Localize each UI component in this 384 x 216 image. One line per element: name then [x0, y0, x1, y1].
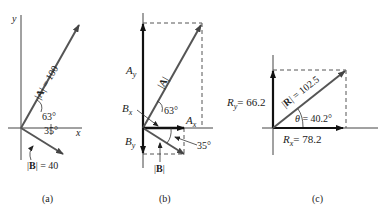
angle-b-pointer [175, 137, 197, 145]
angle-b-label: 35° [44, 125, 58, 136]
ay-label: Ay [125, 64, 137, 79]
angle-b-label: 35° [197, 140, 211, 151]
panel-b-caption: (b) [159, 193, 171, 205]
bx-pointer [137, 110, 158, 126]
vector-diagram: y x |A| = 100 63° 35° |B| = 40 (a) Ay |A… [0, 0, 384, 216]
ax-label: Ax [185, 114, 197, 129]
angle-a-label: 63° [164, 105, 178, 116]
vector-a-magnitude-label: |A| = 100 [32, 64, 60, 101]
x-axis-label: x [75, 127, 81, 138]
angle-b-arc [167, 128, 171, 143]
theta-label: θ = 40.2° [295, 113, 332, 124]
by-label: By [125, 135, 136, 150]
rx-label: Rx= 78.2 [282, 133, 322, 148]
ry-label: Ry= 66.2 [226, 96, 266, 111]
angle-a-label: 63° [42, 111, 56, 122]
panel-b: Ay |A| Bx 63° Ax By 35° |B| (b) [122, 13, 213, 205]
b-label-pointer [30, 146, 33, 160]
b-magnitude-label: |B| [154, 163, 165, 174]
r-magnitude-label: |R| = 102.5 [279, 74, 321, 110]
panel-c: Ry= 66.2 |R| = 102.5 θ = 40.2° Rx= 78.2 … [226, 55, 378, 205]
panel-a: y x |A| = 100 63° 35° |B| = 40 (a) [8, 13, 82, 205]
bx-label: Bx [122, 102, 133, 117]
panel-a-caption: (a) [42, 193, 53, 205]
panel-c-caption: (c) [312, 193, 323, 205]
vector-b-magnitude-label: |B| = 40 [27, 160, 58, 171]
vector-b-arrow [143, 128, 184, 154]
a-magnitude-label: |A| [155, 75, 170, 90]
y-axis-label: y [11, 13, 17, 24]
